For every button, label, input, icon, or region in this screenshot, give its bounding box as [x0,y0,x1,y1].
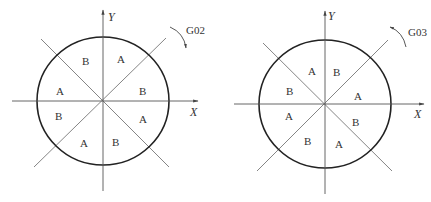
sector-label: B [352,116,359,128]
sector-label: B [286,85,293,97]
sector-label: B [139,85,146,97]
y-axis-label: Y [328,9,336,23]
x-axis-label: X [189,105,198,119]
sector-label: A [139,113,147,125]
counterclockwise-arrow-icon [390,27,406,47]
circular-interpolation-figure: Y X G02 B A A B B A A B Y X G03 A B B A … [0,0,431,202]
sector-label: A [80,137,88,149]
sector-label: B [304,135,311,147]
sector-label: B [112,136,119,148]
sector-label: A [335,138,343,150]
sector-label: A [308,65,316,77]
sector-label: B [82,55,89,67]
sector-label: B [333,66,340,78]
g02-label: G02 [186,24,205,36]
diagonal-line [263,43,392,171]
g02-diagram: Y X G02 B A A B B A A B [12,10,205,191]
sector-label: A [285,110,293,122]
clockwise-arrow-icon [170,27,186,48]
y-axis-label: Y [108,10,116,24]
sector-label: A [117,53,125,65]
sector-label: A [56,85,64,97]
g03-label: G03 [408,26,427,38]
g03-diagram: Y X G03 A B B A A B B A [234,9,427,194]
diagonal-line [41,39,169,167]
x-axis-label: X [413,107,422,121]
sector-label: A [354,90,362,102]
sector-label: B [55,110,62,122]
